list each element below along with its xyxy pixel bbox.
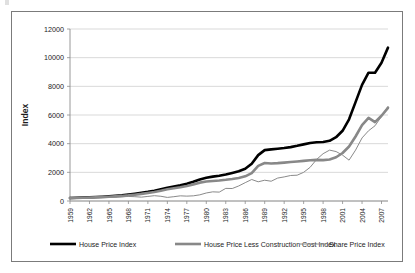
x-tick-label: 2007 [378, 208, 385, 223]
y-axis-title: Index [20, 104, 30, 127]
x-tick-label: 1998 [320, 208, 327, 223]
x-tick-label: 1974 [164, 208, 171, 223]
legend-label-2: Share Price Index [329, 241, 385, 248]
line-chart: 020004000600080001000012000Index19591962… [12, 12, 402, 261]
y-tick-label: 10000 [44, 53, 64, 62]
x-tick-label: 1989 [261, 208, 268, 223]
y-tick-label: 4000 [48, 139, 64, 148]
series-line-1 [70, 108, 388, 198]
figure-root: 020004000600080001000012000Index19591962… [0, 0, 415, 273]
legend-label-0: House Price Index [79, 241, 137, 248]
x-tick-label: 1986 [242, 208, 249, 223]
x-tick-label: 2001 [339, 208, 346, 223]
x-tick-label: 1995 [300, 208, 307, 223]
x-tick-label: 1983 [222, 208, 229, 223]
x-tick-label: 2004 [359, 208, 366, 223]
y-tick-label: 0 [60, 197, 64, 206]
series-line-0 [70, 48, 388, 198]
y-tick-label: 2000 [48, 168, 64, 177]
x-tick-label: 1980 [203, 208, 210, 223]
scan-artifact [5, 0, 9, 5]
x-tick-label: 1971 [144, 208, 151, 223]
x-tick-label: 1977 [183, 208, 190, 223]
x-tick-label: 1992 [281, 208, 288, 223]
series-line-2 [70, 106, 388, 198]
x-tick-label: 1968 [125, 208, 132, 223]
x-tick-label: 1959 [67, 208, 74, 223]
x-tick-label: 1965 [106, 208, 113, 223]
y-tick-label: 8000 [48, 82, 64, 91]
chart-frame: 020004000600080001000012000Index19591962… [11, 11, 403, 262]
x-tick-label: 1962 [86, 208, 93, 223]
y-tick-label: 6000 [48, 111, 64, 120]
y-tick-label: 12000 [44, 25, 64, 34]
